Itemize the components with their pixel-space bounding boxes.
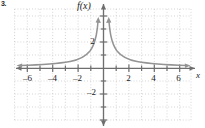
function-graph-plot	[0, 0, 205, 128]
x-tick-label-neg6: –6	[19, 73, 36, 83]
y-tick-label-neg2: –2	[83, 87, 100, 97]
grid-lines	[15, 9, 191, 122]
x-axis	[16, 65, 195, 72]
x-axis-label: x	[196, 70, 200, 80]
x-tick-label-neg2: –2	[69, 73, 86, 83]
graph-screenshot: 3.	[0, 0, 205, 128]
y-axis	[100, 4, 107, 126]
x-tick-label-neg4: –4	[44, 73, 61, 83]
x-tick-label-4: 4	[148, 73, 159, 83]
y-tick-label-2: 2	[87, 36, 98, 46]
curve-right-branch	[106, 17, 187, 66]
x-tick-label-6: 6	[173, 73, 184, 83]
function-axis-label: f(x)	[77, 0, 91, 11]
x-tick-label-2: 2	[123, 73, 134, 83]
